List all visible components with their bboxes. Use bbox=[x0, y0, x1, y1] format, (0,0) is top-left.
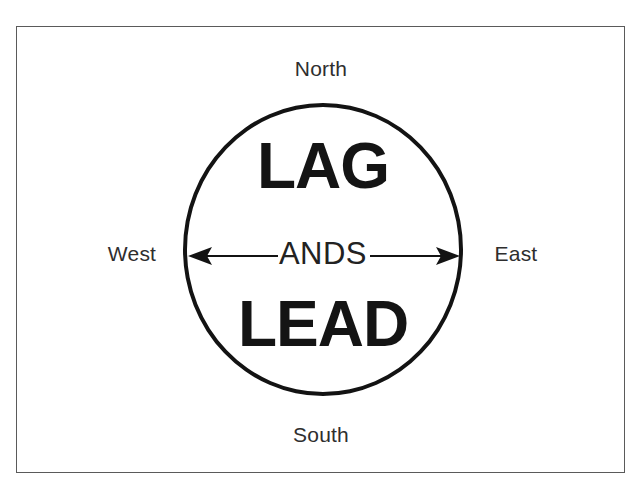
compass-label-west: West bbox=[74, 243, 190, 264]
arrow-right-icon bbox=[368, 240, 462, 272]
compass-label-south: South bbox=[0, 424, 642, 445]
word-lag: LAG bbox=[183, 134, 463, 198]
diagram-canvas: North West East South LAG ANDS LEAD bbox=[0, 0, 642, 479]
arrow-left-icon bbox=[186, 240, 280, 272]
compass-label-north: North bbox=[0, 58, 642, 79]
compass-label-east: East bbox=[458, 243, 574, 264]
word-lead: LEAD bbox=[183, 292, 463, 356]
